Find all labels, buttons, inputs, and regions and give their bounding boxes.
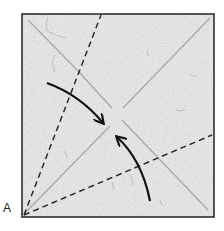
origami-diagram	[0, 0, 224, 231]
corner-label-a: A	[3, 201, 11, 215]
